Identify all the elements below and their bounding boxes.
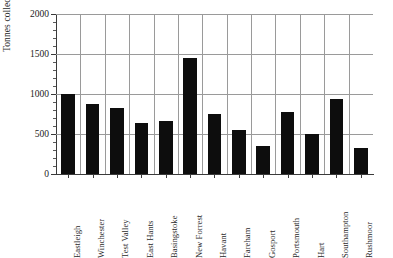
y-axis-minor-tick xyxy=(53,78,56,79)
y-axis-tick-label: 500 xyxy=(35,129,49,139)
gridline-vertical xyxy=(80,14,81,174)
gridline-vertical xyxy=(300,14,301,174)
y-axis-tick-label: 1500 xyxy=(30,49,49,59)
x-axis-tick-label: Gosport xyxy=(267,178,277,258)
gridline-horizontal xyxy=(56,14,373,15)
y-axis-minor-tick xyxy=(53,30,56,31)
gridline-vertical xyxy=(129,14,130,174)
y-axis-minor-tick xyxy=(53,22,56,23)
y-axis-minor-tick xyxy=(53,62,56,63)
bar xyxy=(208,114,222,174)
y-axis-tick-label: 2000 xyxy=(30,9,49,19)
bar xyxy=(183,58,197,174)
y-axis-minor-tick xyxy=(53,70,56,71)
gridline-horizontal xyxy=(56,94,373,95)
x-axis-tick-label: Basingstoke xyxy=(169,178,179,258)
x-axis-line xyxy=(56,174,374,175)
x-axis-tick-label: Hart xyxy=(316,178,326,258)
bar xyxy=(86,104,100,174)
x-axis-tick-label-text: Hart xyxy=(316,178,326,258)
y-axis-minor-tick xyxy=(53,166,56,167)
x-axis-tick-label: East Hants xyxy=(145,178,155,258)
x-axis-tick-label: Portsmouth xyxy=(291,178,301,258)
bar xyxy=(135,123,149,174)
y-axis-minor-tick xyxy=(53,150,56,151)
y-axis-minor-tick xyxy=(53,102,56,103)
x-axis-tick-label-text: Rushmoor xyxy=(364,178,374,258)
bar xyxy=(281,112,295,174)
x-axis-tick-label-text: Test Valley xyxy=(120,178,130,258)
plot-area: 0500100015002000 xyxy=(56,14,373,174)
y-axis-title: Tonnes collected xyxy=(2,0,16,52)
bar xyxy=(305,134,319,174)
y-axis-minor-tick xyxy=(53,86,56,87)
y-axis-major-tick xyxy=(51,54,56,55)
bar xyxy=(61,94,75,174)
y-axis-major-tick xyxy=(51,134,56,135)
bar xyxy=(330,99,344,174)
x-axis-tick-label-text: Gosport xyxy=(267,178,277,258)
x-axis-tick-label-text: Fareham xyxy=(242,178,252,258)
x-axis-tick-label-text: East Hants xyxy=(145,178,155,258)
x-axis-labels: EastleighWinchesterTest ValleyEast Hants… xyxy=(56,178,373,246)
x-axis-tick-label-text: Basingstoke xyxy=(169,178,179,258)
x-axis-tick-label: Test Valley xyxy=(120,178,130,258)
y-axis-minor-tick xyxy=(53,38,56,39)
x-axis-tick-label: Rushmoor xyxy=(364,178,374,258)
gridline-vertical xyxy=(349,14,350,174)
bar xyxy=(159,121,173,174)
y-axis-minor-tick xyxy=(53,126,56,127)
gridline-vertical xyxy=(105,14,106,174)
bar xyxy=(354,148,368,174)
y-axis-tick-label: 1000 xyxy=(30,89,49,99)
x-axis-tick-label-text: Southampton xyxy=(340,178,350,258)
y-axis-major-tick xyxy=(51,94,56,95)
x-axis-tick-label-text: Winchester xyxy=(96,178,106,258)
x-axis-tick-label: Fareham xyxy=(242,178,252,258)
gridline-vertical xyxy=(275,14,276,174)
y-axis-tick-label: 0 xyxy=(44,169,49,179)
gridline-vertical xyxy=(324,14,325,174)
gridline-vertical xyxy=(178,14,179,174)
bar xyxy=(232,130,246,174)
gridline-horizontal xyxy=(56,54,373,55)
x-axis-tick-label-text: Eastleigh xyxy=(72,178,82,258)
y-axis-minor-tick xyxy=(53,118,56,119)
y-axis-major-tick xyxy=(51,174,56,175)
x-axis-tick-label-text: Portsmouth xyxy=(291,178,301,258)
x-axis-tick-label-text: New Forrest xyxy=(194,178,204,258)
gridline-vertical xyxy=(227,14,228,174)
x-axis-tick-label: Southampton xyxy=(340,178,350,258)
y-axis-minor-tick xyxy=(53,158,56,159)
bar xyxy=(256,146,270,174)
y-axis-minor-tick xyxy=(53,46,56,47)
x-axis-tick-label: Eastleigh xyxy=(72,178,82,258)
y-axis-minor-tick xyxy=(53,142,56,143)
y-axis-minor-tick xyxy=(53,110,56,111)
gridline-vertical xyxy=(251,14,252,174)
x-axis-tick-label: Winchester xyxy=(96,178,106,258)
gridline-vertical xyxy=(202,14,203,174)
x-axis-tick-label: Havant xyxy=(218,178,228,258)
bar xyxy=(110,108,124,174)
x-axis-tick-label-text: Havant xyxy=(218,178,228,258)
x-axis-tick-label: New Forrest xyxy=(194,178,204,258)
y-axis-major-tick xyxy=(51,14,56,15)
gridline-vertical xyxy=(154,14,155,174)
